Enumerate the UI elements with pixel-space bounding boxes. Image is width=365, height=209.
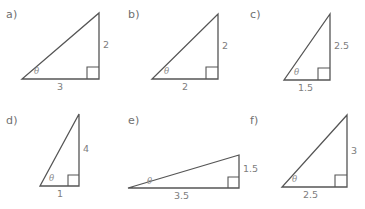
triangle-a-adjacent-label: 3: [57, 81, 63, 92]
triangle-a-theta-label: θ: [34, 66, 39, 76]
triangle-a-opposite-label: 2: [103, 39, 109, 50]
triangle-panel-a: a) 3 2 θ: [0, 0, 121, 104]
triangle-f-theta-label: θ: [292, 174, 297, 184]
triangle-f-opposite-label: 3: [351, 145, 357, 156]
triangle-panel-c: c) 1.5 2.5 θ: [244, 0, 365, 104]
triangle-panel-e: e) 3.5 1.5 θ: [122, 105, 243, 209]
triangle-c-opposite-label: 2.5: [334, 40, 349, 51]
triangle-b-adjacent-label: 2: [182, 81, 188, 92]
triangle-b-theta-label: θ: [164, 66, 169, 76]
triangle-panel-d: d) 1 4 θ: [0, 105, 121, 209]
triangle-d-theta-label: θ: [49, 173, 54, 183]
triangle-f-adjacent-label: 2.5: [303, 189, 318, 200]
triangle-e-theta-label: θ: [147, 176, 152, 186]
triangle-panel-f: f) 2.5 3 θ: [244, 105, 365, 209]
triangle-worksheet: a) 3 2 θ b) 2 2 θ c) 1.5 2.5 θ d): [0, 0, 365, 209]
triangle-panel-b: b) 2 2 θ: [122, 0, 243, 104]
triangle-d-opposite-label: 4: [83, 143, 89, 154]
triangle-d-adjacent-label: 1: [57, 188, 63, 199]
triangle-c-theta-label: θ: [294, 67, 299, 77]
triangle-c-adjacent-label: 1.5: [298, 82, 313, 93]
triangle-e-adjacent-label: 3.5: [174, 190, 189, 201]
triangle-b-opposite-label: 2: [222, 40, 228, 51]
